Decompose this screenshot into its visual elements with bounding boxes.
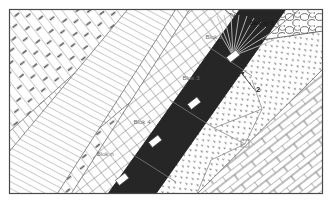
geological-cross-section-figure: Blok nr 1 Blok 2 Blok 3 Blok 4 Blok n 2 bbox=[0, 0, 332, 203]
cross-section-canvas: Blok nr 1 Blok 2 Blok 3 Blok 4 Blok n 2 bbox=[0, 0, 332, 203]
block-n-label: Blok n bbox=[96, 150, 114, 157]
annotation-2-label: 2 bbox=[256, 85, 260, 94]
block-2-label: Blok 2 bbox=[205, 33, 223, 40]
block-3-label: Blok 3 bbox=[182, 74, 200, 81]
block-4-label: Blok 4 bbox=[133, 118, 151, 125]
block-1-label: Blok nr 1 bbox=[250, 19, 275, 26]
